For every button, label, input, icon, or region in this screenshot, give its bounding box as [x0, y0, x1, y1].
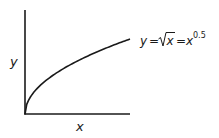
x-axis-label: x — [75, 119, 84, 134]
equation-equals-1: = — [149, 34, 159, 48]
equation-exponent: 0.5 — [193, 31, 206, 40]
y-axis-label: y — [9, 54, 18, 69]
equation-lhs: y — [139, 34, 148, 48]
equation-radicand: x — [166, 34, 175, 48]
sqrt-diagram: y x y = x = x 0.5 — [0, 0, 219, 138]
equation-equals-2: = — [176, 34, 186, 48]
equation-label: y = x = x 0.5 — [139, 31, 206, 48]
sqrt-curve — [25, 39, 130, 114]
